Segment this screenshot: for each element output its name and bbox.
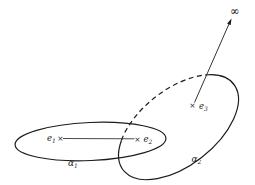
infinity-label: ∞	[230, 4, 240, 18]
riemann-cycles-diagram: × × × e1 e2 e3 α1 α2 ∞	[0, 0, 255, 185]
e3-label-sub: 3	[204, 105, 208, 112]
alpha1-label: α1	[68, 158, 78, 169]
e3-marker: ×	[189, 101, 195, 110]
e2-label-sub: 2	[148, 138, 153, 145]
e2-label: e2	[144, 134, 153, 145]
alpha1-label-sub: 1	[74, 162, 78, 169]
e1-label-sub: 1	[52, 137, 56, 144]
alpha2-ellipse-solid-arc	[119, 75, 239, 180]
e1-marker: ×	[57, 134, 63, 143]
e1-label: e1	[47, 133, 56, 144]
e3-label: e3	[199, 101, 208, 112]
alpha2-label-sub: 2	[197, 158, 202, 165]
cut-e3-infinity-line	[195, 21, 231, 103]
arrow-head-icon	[227, 19, 231, 26]
alpha2-label: α2	[192, 154, 202, 165]
e2-marker: ×	[134, 135, 140, 144]
figure-canvas: × × × e1 e2 e3 α1 α2 ∞	[0, 0, 255, 185]
